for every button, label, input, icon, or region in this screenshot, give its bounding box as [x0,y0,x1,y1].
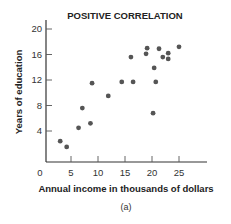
y-tick-label: 8 [37,100,42,111]
data-point [90,81,95,86]
data-point [166,51,171,56]
data-points [58,44,182,149]
x-tick-label: 0 [37,167,42,178]
data-point [153,80,158,85]
x-tick-label: 10 [93,167,104,178]
chart-title: POSITIVE CORRELATION [67,10,183,21]
y-tick-label: 4 [37,125,42,136]
y-ticks: 48121620 [31,23,52,136]
x-axis-label: Annual income in thousands of dollars [38,183,213,194]
data-point [88,121,93,126]
data-point [106,94,111,99]
data-point [64,145,69,150]
data-point [119,80,124,85]
data-point [166,57,171,62]
data-point [131,80,136,85]
data-point [76,125,81,130]
y-axis-label: Years of education [13,50,24,135]
x-tick-label: 15 [120,167,131,178]
data-point [157,46,162,51]
data-point [160,55,165,60]
y-tick-label: 20 [31,23,42,34]
y-tick-label: 12 [31,74,42,85]
data-point [145,46,150,51]
data-point [129,55,134,60]
scatter-chart: POSITIVE CORRELATION 48121620 0510152025… [0,0,231,224]
data-point [151,111,156,116]
x-tick-label: 25 [174,167,185,178]
x-ticks: 0510152025 [37,156,184,178]
data-point [144,51,149,56]
axes [46,20,207,162]
figure-caption: (a) [121,202,132,212]
data-point [58,139,63,144]
x-tick-label: 20 [147,167,158,178]
data-point [177,44,182,49]
data-point [152,65,157,70]
x-tick-label: 5 [68,167,73,178]
data-point [80,106,85,111]
y-tick-label: 16 [31,49,42,60]
